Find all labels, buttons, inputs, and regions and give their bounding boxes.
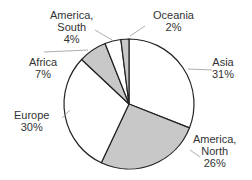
label-europe: Europe30% — [14, 109, 49, 133]
leader-line — [44, 50, 88, 52]
label-africa: Africa7% — [29, 56, 57, 80]
leader-line — [130, 26, 145, 36]
label-asia: Asia31% — [212, 56, 234, 80]
label-america-south: America,South4% — [50, 9, 93, 45]
leader-line — [95, 30, 112, 40]
leader-line — [188, 69, 212, 70]
label-oceania: Oceania2% — [153, 9, 194, 33]
label-america-north: America,North26% — [193, 133, 236, 169]
